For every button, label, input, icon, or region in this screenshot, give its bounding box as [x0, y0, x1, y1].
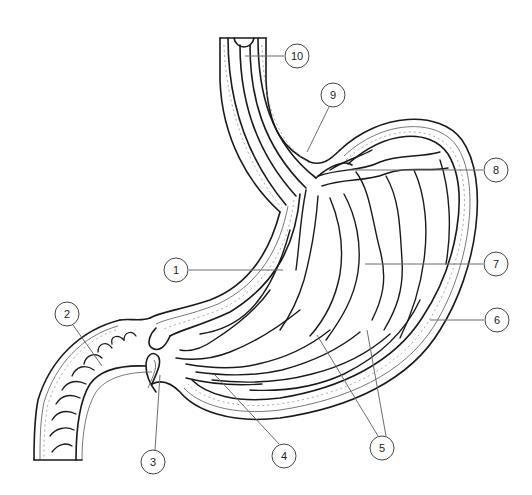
- callout-8: 8: [484, 158, 508, 182]
- callout-label-6: 6: [494, 314, 500, 326]
- callout-2: 2: [55, 302, 79, 326]
- callout-label-3: 3: [150, 456, 156, 468]
- callout-label-1: 1: [173, 264, 179, 276]
- leader-3: [155, 375, 160, 450]
- callout-label-4: 4: [281, 450, 287, 462]
- callout-label-10: 10: [291, 50, 303, 62]
- callout-10: 10: [285, 44, 309, 68]
- callout-9: 9: [321, 83, 345, 107]
- callout-4: 4: [272, 444, 296, 468]
- callout-6: 6: [485, 308, 509, 332]
- callout-label-5: 5: [379, 442, 385, 454]
- duodenum: [34, 320, 152, 460]
- callout-label-8: 8: [493, 164, 499, 176]
- callout-label-9: 9: [330, 89, 336, 101]
- pylorus: [120, 318, 170, 392]
- leader-9: [307, 107, 329, 152]
- callout-label-2: 2: [64, 308, 70, 320]
- leader-2: [73, 325, 102, 366]
- stomach-diagram: 1 2 3 4 5 6 7 8 9 10: [0, 0, 532, 495]
- callout-label-7: 7: [493, 258, 499, 270]
- callout-1: 1: [164, 258, 188, 282]
- callout-3: 3: [141, 450, 165, 474]
- callout-5: 5: [370, 436, 394, 460]
- stomach-wall: [150, 119, 477, 419]
- callout-7: 7: [484, 252, 508, 276]
